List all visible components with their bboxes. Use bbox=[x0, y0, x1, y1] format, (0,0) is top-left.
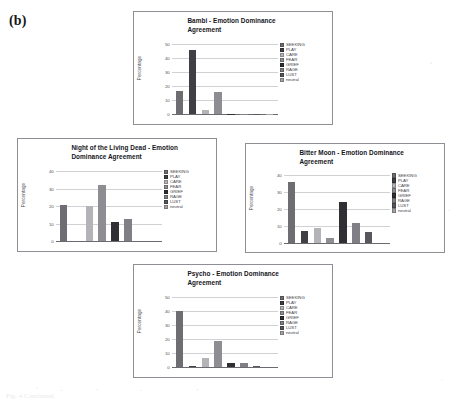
y-tick-label: 40 bbox=[165, 309, 170, 314]
bar-slot-neutral bbox=[263, 44, 276, 114]
bar-rage bbox=[240, 114, 247, 115]
scan-speckle bbox=[140, 390, 142, 391]
bar-play bbox=[189, 366, 196, 367]
y-tick-label: 30 bbox=[165, 323, 170, 328]
bar-slot-fear bbox=[324, 175, 337, 243]
bar-series bbox=[172, 297, 278, 367]
chart-title-line2: Dominance Agreement bbox=[71, 152, 212, 161]
y-tick-label: 10 bbox=[165, 351, 170, 356]
bar-fear bbox=[214, 341, 221, 368]
legend-swatch-icon bbox=[392, 208, 396, 212]
y-axis-ticks: 010203040 bbox=[37, 171, 55, 241]
bar-fear bbox=[326, 238, 333, 243]
legend-swatch-icon bbox=[164, 170, 168, 174]
legend-swatch-icon bbox=[392, 198, 396, 202]
legend-swatch-icon bbox=[280, 301, 284, 305]
legend-swatch-icon bbox=[392, 188, 396, 192]
legend-swatch-icon bbox=[280, 53, 284, 57]
y-tick-label: 40 bbox=[277, 173, 282, 178]
bar-slot-rage bbox=[237, 44, 250, 114]
bar-slot-seeking bbox=[173, 44, 186, 114]
chart-title-line1: Bitter Moon - Emotion Dominance bbox=[299, 148, 440, 157]
bar-slot-lust bbox=[134, 171, 147, 241]
bar-rage bbox=[240, 363, 247, 367]
bar-slot-neutral bbox=[147, 171, 160, 241]
legend-swatch-icon bbox=[392, 183, 396, 187]
legend-label: neutral bbox=[170, 204, 183, 209]
bar-grief bbox=[339, 202, 346, 243]
axis-baseline bbox=[172, 114, 278, 115]
bar-slot-fear bbox=[212, 297, 225, 367]
bar-neutral bbox=[266, 114, 273, 115]
y-tick-label: 50 bbox=[165, 295, 170, 300]
scan-speckle bbox=[10, 300, 11, 301]
chart-legend: SEEKINGPLAYCAREFEARGRIEFRAGELUSTneutral bbox=[392, 173, 440, 213]
axis-baseline bbox=[172, 367, 278, 368]
legend-swatch-icon bbox=[280, 296, 284, 300]
chart-panel-bambi: Bambi - Emotion DominanceAgreementPercen… bbox=[133, 11, 333, 125]
chart-title: Bambi - Emotion DominanceAgreement bbox=[187, 16, 328, 34]
y-axis-ticks: 010203040 bbox=[265, 175, 283, 243]
chart-legend: SEEKINGPLAYCAREFEARGRIEFRAGELUSTneutral bbox=[280, 295, 328, 335]
legend-swatch-icon bbox=[280, 331, 284, 335]
y-axis-ticks: 01020304050 bbox=[153, 44, 171, 114]
bar-slot-grief bbox=[225, 44, 238, 114]
y-tick-label: 40 bbox=[49, 169, 54, 174]
y-tick-label: 50 bbox=[165, 42, 170, 47]
y-axis-label: Percentage bbox=[248, 186, 253, 211]
legend-swatch-icon bbox=[280, 58, 284, 62]
bar-slot-seeking bbox=[285, 175, 298, 243]
legend-swatch-icon bbox=[392, 178, 396, 182]
legend-swatch-icon bbox=[392, 193, 396, 197]
bar-slot-play bbox=[298, 175, 311, 243]
chart-panel-psycho: Psycho - Emotion DominanceAgreementPerce… bbox=[133, 264, 333, 378]
bar-slot-lust bbox=[250, 297, 263, 367]
legend-swatch-icon bbox=[280, 326, 284, 330]
bar-care bbox=[86, 206, 93, 241]
bar-play bbox=[189, 50, 196, 114]
legend-item-neutral: neutral bbox=[280, 330, 328, 335]
legend-swatch-icon bbox=[280, 306, 284, 310]
axis-baseline bbox=[56, 241, 162, 242]
legend-label: neutral bbox=[286, 77, 299, 82]
plot-area bbox=[56, 171, 162, 241]
bar-series bbox=[172, 44, 278, 114]
chart-title: Bitter Moon - Emotion DominanceAgreement bbox=[299, 148, 440, 166]
legend-swatch-icon bbox=[164, 200, 168, 204]
legend-item-neutral: neutral bbox=[280, 77, 328, 82]
bar-series bbox=[284, 175, 390, 243]
y-axis-label: Percentage bbox=[136, 56, 141, 81]
y-tick-label: 20 bbox=[49, 204, 54, 209]
bar-fear bbox=[98, 185, 105, 241]
scan-speckle bbox=[430, 62, 432, 64]
legend-swatch-icon bbox=[280, 311, 284, 315]
plot-area bbox=[172, 297, 278, 367]
bar-slot-grief bbox=[337, 175, 350, 243]
y-tick-label: 0 bbox=[51, 239, 53, 244]
bar-fear bbox=[214, 92, 221, 114]
legend-swatch-icon bbox=[164, 185, 168, 189]
legend-swatch-icon bbox=[280, 316, 284, 320]
chart-title-line2: Agreement bbox=[187, 25, 328, 34]
bar-slot-fear bbox=[96, 171, 109, 241]
chart-panel-night-of-the-living-dead: Night of the Living Dead - EmotionDomina… bbox=[17, 138, 217, 252]
chart-title-line1: Bambi - Emotion Dominance bbox=[187, 16, 328, 25]
y-tick-label: 30 bbox=[49, 186, 54, 191]
bar-slot-care bbox=[311, 175, 324, 243]
bar-rage bbox=[352, 223, 359, 242]
figure-caption: Fig. 4 Continued. bbox=[6, 392, 55, 400]
bar-slot-grief bbox=[109, 171, 122, 241]
y-axis-ticks: 01020304050 bbox=[153, 297, 171, 367]
bar-slot-rage bbox=[237, 297, 250, 367]
bar-slot-grief bbox=[225, 297, 238, 367]
bar-seeking bbox=[60, 205, 67, 242]
legend-swatch-icon bbox=[280, 321, 284, 325]
bar-series bbox=[56, 171, 162, 241]
legend-swatch-icon bbox=[280, 68, 284, 72]
y-tick-label: 10 bbox=[165, 98, 170, 103]
bar-slot-play bbox=[186, 297, 199, 367]
bar-slot-neutral bbox=[375, 175, 388, 243]
bar-slot-play bbox=[186, 44, 199, 114]
bar-slot-seeking bbox=[57, 171, 70, 241]
legend-item-neutral: neutral bbox=[392, 208, 440, 213]
